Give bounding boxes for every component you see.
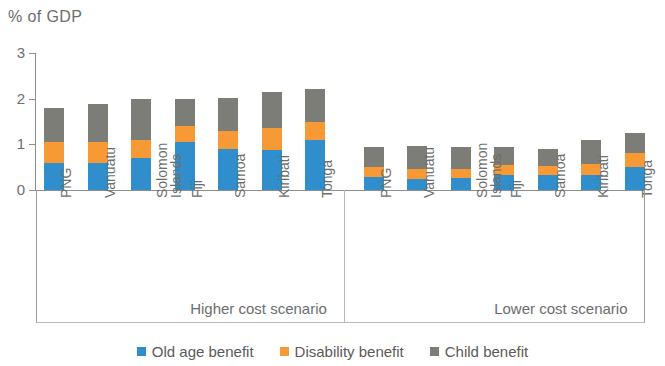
x-label-fiji: Fiji	[509, 180, 523, 198]
bar-segment-old-age-benefit	[451, 178, 471, 190]
bar-segment-child-benefit	[262, 92, 282, 129]
legend-item[interactable]: Old age benefit	[137, 343, 254, 360]
scenario-divider	[344, 190, 345, 322]
legend-swatch-old-age-benefit	[137, 347, 146, 356]
x-label-png: PNG	[379, 168, 393, 198]
x-label-tonga: Tonga	[320, 160, 334, 198]
y-tick-label: 3	[3, 45, 25, 60]
legend-label: Child benefit	[445, 343, 528, 360]
bar-solomon-islands-higher[interactable]	[131, 99, 151, 190]
x-label-fiji: Fiji	[190, 180, 204, 198]
legend-item[interactable]: Disability benefit	[280, 343, 404, 360]
y-tick-label: 1	[3, 136, 25, 151]
y-tick-mark	[29, 190, 35, 191]
x-label-kiribati: Kiribati	[277, 155, 291, 198]
legend-swatch-disability-benefit	[280, 347, 289, 356]
x-label-vanuatu: Vanuatu	[422, 147, 436, 198]
legend-label: Disability benefit	[295, 343, 404, 360]
bar-segment-disability-benefit	[175, 126, 195, 142]
y-tick-label: 2	[3, 91, 25, 106]
x-label-samoa: Samoa	[233, 154, 247, 198]
bar-segment-child-benefit	[451, 147, 471, 168]
legend-item[interactable]: Child benefit	[430, 343, 528, 360]
stacked-bar-chart: % of GDP 0123 PNGVanuatuSolomonIslandsFi…	[0, 0, 665, 366]
x-label-kiribati: Kiribati	[596, 155, 610, 198]
bar-segment-child-benefit	[625, 133, 645, 154]
bar-segment-child-benefit	[218, 98, 238, 131]
bar-segment-old-age-benefit	[131, 158, 151, 190]
bar-segment-disability-benefit	[218, 131, 238, 149]
legend-swatch-child-benefit	[430, 347, 439, 356]
bar-segment-disability-benefit	[305, 122, 325, 139]
bar-segment-disability-benefit	[44, 142, 64, 163]
y-tick-mark	[29, 144, 35, 145]
x-label-tonga: Tonga	[640, 160, 654, 198]
bar-segment-child-benefit	[305, 89, 325, 123]
bar-segment-child-benefit	[175, 99, 195, 126]
x-label-solomon-islands: SolomonIslands	[155, 143, 184, 198]
y-tick-label: 0	[3, 182, 25, 197]
y-tick-mark	[29, 99, 35, 100]
x-label-vanuatu: Vanuatu	[103, 147, 117, 198]
bar-segment-child-benefit	[88, 104, 108, 142]
chart-legend: Old age benefitDisability benefitChild b…	[0, 343, 665, 360]
bar-segment-disability-benefit	[262, 128, 282, 150]
y-tick-mark	[29, 53, 35, 54]
x-label-png: PNG	[59, 168, 73, 198]
group-bracket-line	[36, 322, 645, 323]
bar-segment-child-benefit	[364, 147, 384, 168]
bar-segment-child-benefit	[44, 108, 64, 142]
y-axis-title: % of GDP	[8, 8, 82, 26]
bar-segment-disability-benefit	[451, 169, 471, 178]
bar-solomon-islands-lower[interactable]	[451, 147, 471, 190]
legend-label: Old age benefit	[152, 343, 254, 360]
group-axis-end-tick	[36, 190, 37, 322]
x-label-solomon-islands: SolomonIslands	[475, 143, 504, 198]
x-label-samoa: Samoa	[553, 154, 567, 198]
bar-segment-child-benefit	[131, 99, 151, 140]
group-axis-end-tick	[644, 190, 645, 322]
bar-segment-disability-benefit	[131, 140, 151, 158]
